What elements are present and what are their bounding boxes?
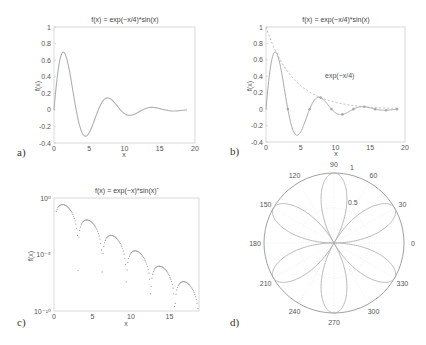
data-marker [385, 109, 388, 112]
data-marker [363, 105, 366, 108]
panel-b-xlabel: x [334, 150, 338, 157]
ytick-label: 10⁻¹⁰ [34, 308, 51, 315]
angle-label: 270 [328, 319, 340, 326]
data-marker [396, 108, 399, 111]
panel-c-dots [56, 204, 199, 309]
ytick-label: 1 [259, 24, 263, 31]
ytick-label: 0.8 [253, 40, 263, 47]
radial-label: 0.5 [348, 199, 358, 206]
ytick-label: 1 [47, 24, 51, 31]
xtick-label: 5 [87, 145, 91, 152]
data-marker [319, 96, 322, 99]
angle-label: 300 [368, 308, 380, 315]
panel-c-xticks: 051015 [52, 313, 173, 320]
ytick-label: 0.8 [41, 40, 51, 47]
panel-a-title: f(x) = exp(−x/4)*sin(x) [91, 16, 158, 24]
angle-label: 210 [260, 280, 272, 287]
xtick-label: 15 [165, 313, 173, 320]
panel-c-axes [54, 198, 199, 311]
panel-a-xlabel: x [122, 151, 126, 158]
ytick-label: -0.2 [39, 123, 51, 130]
panel-a-label: a) [17, 146, 26, 159]
data-marker [352, 108, 355, 111]
panel-c-label: c) [17, 316, 26, 329]
panel-a-yticks: -0.4-0.200.20.40.60.81 [39, 24, 56, 147]
angle-label: 0 [411, 240, 415, 247]
xtick-label: 0 [52, 145, 56, 152]
data-marker [287, 108, 290, 111]
ytick-label: 0.4 [41, 73, 51, 80]
angle-label: 240 [289, 308, 301, 315]
panel-a-axes [54, 27, 195, 143]
panel-c-ylabel: f(x) [27, 251, 35, 261]
panel-a-ylabel: f(x) [34, 81, 42, 91]
ytick-label: -0.4 [251, 139, 263, 146]
ytick-label: 0.2 [41, 90, 51, 97]
data-marker [341, 113, 344, 116]
panel-b-title: f(x) = exp(−x/4)*sin(x) [302, 16, 369, 24]
xtick-label: 20 [191, 145, 199, 152]
panel-b-annotation: exp(−x/4) [325, 72, 354, 80]
panel-b-yticks: -0.4-0.200.20.40.60.81 [251, 24, 268, 146]
angle-label: 150 [260, 201, 272, 208]
angle-label: 60 [370, 172, 378, 179]
panel-a-curve [54, 52, 187, 136]
xtick-label: 15 [156, 145, 164, 152]
panel-c-title: f(x) = exp(−x)*sin(x)ˆ [95, 187, 159, 195]
data-marker [308, 108, 311, 111]
panel-b-markers [287, 96, 399, 115]
angle-label: 30 [399, 201, 407, 208]
angle-label: 180 [249, 240, 261, 247]
xtick-label: 15 [366, 144, 374, 151]
ytick-label: -0.2 [251, 122, 263, 129]
panel-c: f(x) = exp(−x)*sin(x)ˆ 10⁰10⁻⁵10⁻¹⁰ 0510… [17, 187, 199, 329]
figure: f(x) = exp(−x/4)*sin(x) -0.4-0.200.20.40… [0, 0, 426, 345]
xtick-label: 20 [401, 144, 409, 151]
ytick-label: 0 [47, 106, 51, 113]
ytick-label: 0.6 [253, 56, 263, 63]
xtick-label: 10 [127, 313, 135, 320]
ytick-label: 10⁰ [40, 195, 51, 202]
angle-label: 120 [289, 172, 301, 179]
data-marker [374, 108, 377, 111]
panel-c-yticks: 10⁰10⁻⁵10⁻¹⁰ [34, 195, 51, 315]
ytick-label: 0.4 [253, 73, 263, 80]
xtick-label: 5 [91, 313, 95, 320]
angle-label: 330 [397, 280, 409, 287]
data-marker [330, 108, 333, 111]
ytick-label: 0 [259, 106, 263, 113]
panel-c-xlabel: x [124, 320, 128, 327]
panel-b: f(x) = exp(−x/4)*sin(x) -0.4-0.200.20.40… [230, 16, 409, 158]
ytick-label: 10⁻⁵ [36, 251, 51, 258]
panel-b-axes [266, 27, 405, 142]
xtick-label: 5 [299, 144, 303, 151]
panel-a: f(x) = exp(−x/4)*sin(x) -0.4-0.200.20.40… [17, 16, 199, 159]
panel-d: 03060901201501802102402703003300.51 d) [230, 161, 415, 329]
panel-b-ylabel: f(x) [246, 81, 254, 91]
ytick-label: 0.6 [41, 57, 51, 64]
ytick-label: -0.4 [39, 140, 51, 147]
xtick-label: 0 [264, 144, 268, 151]
polar-angle-labels: 03060901201501802102402703003300.51 [249, 161, 415, 326]
angle-label: 90 [330, 161, 338, 168]
xtick-label: 0 [52, 313, 56, 320]
panel-b-label: b) [230, 145, 240, 158]
ytick-label: 0.2 [253, 89, 263, 96]
panel-d-label: d) [230, 316, 240, 329]
panel-b-curve [266, 52, 397, 135]
radial-label: 1 [350, 164, 354, 171]
